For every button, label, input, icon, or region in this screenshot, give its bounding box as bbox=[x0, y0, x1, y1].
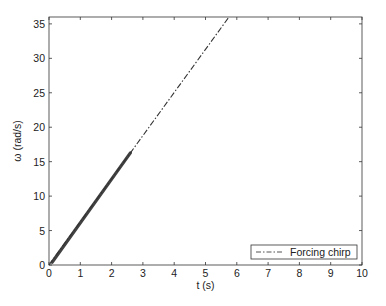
x-tick-label: 4 bbox=[171, 267, 177, 279]
x-tick-label: 2 bbox=[109, 267, 115, 279]
plot-area bbox=[49, 17, 362, 265]
y-tick-label: 30 bbox=[33, 52, 45, 64]
legend: Forcing chirp bbox=[251, 245, 357, 259]
x-tick-label: 7 bbox=[265, 267, 271, 279]
y-tick-label: 10 bbox=[33, 190, 45, 202]
x-tick-label: 3 bbox=[140, 267, 146, 279]
x-tick-label: 0 bbox=[46, 267, 52, 279]
x-tick-label: 10 bbox=[356, 267, 368, 279]
x-tick-label: 9 bbox=[328, 267, 334, 279]
legend-entry-forcing-chirp: Forcing chirp bbox=[290, 246, 351, 258]
chart-canvas: 01234567891005101520253035 t (s) ω (rad/… bbox=[0, 0, 386, 306]
y-tick-label: 15 bbox=[33, 156, 45, 168]
y-tick-label: 35 bbox=[33, 18, 45, 30]
y-tick-label: 0 bbox=[39, 259, 45, 271]
x-axis-label: t (s) bbox=[196, 279, 214, 291]
y-tick-label: 5 bbox=[39, 225, 45, 237]
x-tick-label: 8 bbox=[296, 267, 302, 279]
x-tick-label: 5 bbox=[203, 267, 209, 279]
y-tick-label: 25 bbox=[33, 87, 45, 99]
y-tick-label: 20 bbox=[33, 121, 45, 133]
x-tick-label: 1 bbox=[77, 267, 83, 279]
plot-background bbox=[49, 17, 362, 265]
y-axis-label: ω (rad/s) bbox=[11, 120, 23, 161]
x-tick-label: 6 bbox=[234, 267, 240, 279]
